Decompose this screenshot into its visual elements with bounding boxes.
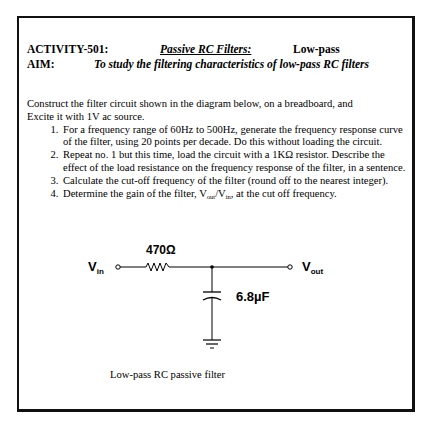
ground-icon [203, 340, 221, 348]
resistor-value: 470Ω [146, 243, 176, 257]
vout-label: Vout [302, 259, 323, 276]
figure-caption: Low-pass RC passive filter [110, 369, 225, 380]
capacitor-value: 6.8µF [236, 289, 270, 304]
resistor-symbol [146, 263, 175, 271]
vin-terminal [116, 265, 120, 269]
circuit-diagram: Vin 470Ω Vout 6.8µF [0, 0, 431, 427]
vout-terminal [288, 265, 292, 269]
vin-label: Vin [88, 259, 104, 276]
